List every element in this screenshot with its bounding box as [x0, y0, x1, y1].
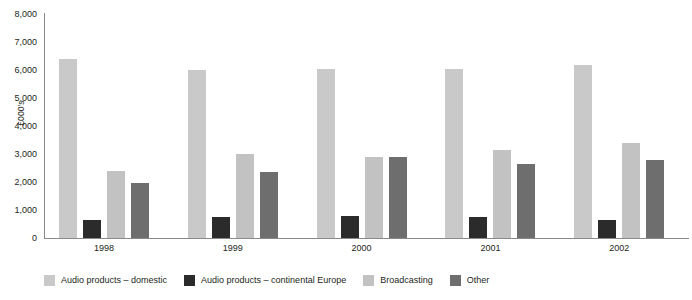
bar-group — [188, 14, 278, 238]
chart-page: £000's 8,0007,0006,0005,0004,0003,0002,0… — [0, 0, 692, 300]
bar — [389, 157, 407, 238]
legend-item[interactable]: Audio products – domestic — [44, 275, 167, 286]
bar-group — [59, 14, 149, 238]
bar — [317, 69, 335, 238]
bar-chart: £000's 8,0007,0006,0005,0004,0003,0002,0… — [0, 0, 692, 262]
legend-item[interactable]: Other — [450, 275, 490, 286]
y-axis-tick-label: 5,000 — [0, 94, 37, 103]
legend-item[interactable]: Audio products – continental Europe — [184, 275, 346, 286]
x-axis-category-label: 2000 — [305, 243, 419, 254]
legend-label: Audio products – continental Europe — [201, 275, 346, 286]
chart-legend: Audio products – domesticAudio products … — [44, 272, 506, 288]
legend-label: Broadcasting — [380, 275, 433, 286]
y-axis-tick-label: 1,000 — [0, 206, 37, 215]
bar — [188, 70, 206, 238]
legend-label: Other — [467, 275, 490, 286]
plot-area — [45, 14, 689, 238]
bar — [59, 59, 77, 238]
legend-swatch-icon — [363, 275, 374, 286]
x-axis-category-labels: 19981999200020012002 — [45, 243, 689, 259]
x-axis-category-label: 2001 — [433, 243, 547, 254]
bar — [260, 172, 278, 238]
bar-group — [574, 14, 664, 238]
bar — [646, 160, 664, 238]
legend-item[interactable]: Broadcasting — [363, 275, 433, 286]
bar-group — [317, 14, 407, 238]
legend-label: Audio products – domestic — [61, 275, 167, 286]
legend-swatch-icon — [44, 275, 55, 286]
y-axis-tick-label: 7,000 — [0, 38, 37, 47]
bar — [131, 183, 149, 238]
bar — [341, 216, 359, 238]
y-axis-tick-label: 3,000 — [0, 150, 37, 159]
x-axis-category-label: 1999 — [176, 243, 290, 254]
bar — [365, 157, 383, 238]
y-axis-tick-label: 4,000 — [0, 122, 37, 131]
bar — [83, 220, 101, 238]
x-axis-line — [44, 238, 689, 239]
bar — [212, 217, 230, 238]
y-axis-tick-labels: 8,0007,0006,0005,0004,0003,0002,0001,000… — [0, 0, 44, 262]
bar — [469, 217, 487, 238]
y-axis-tick-label: 6,000 — [0, 66, 37, 75]
bar-group — [445, 14, 535, 238]
bar — [107, 171, 125, 238]
bar — [574, 65, 592, 238]
x-axis-category-label: 2002 — [562, 243, 676, 254]
y-axis-tick-label: 0 — [0, 234, 37, 243]
legend-swatch-icon — [450, 275, 461, 286]
y-axis-tick-label: 8,000 — [0, 10, 37, 19]
bar — [445, 69, 463, 238]
y-axis-tick-label: 2,000 — [0, 178, 37, 187]
bar — [517, 164, 535, 238]
bar — [493, 150, 511, 238]
bar — [598, 220, 616, 238]
bar — [236, 154, 254, 238]
x-axis-category-label: 1998 — [47, 243, 161, 254]
legend-swatch-icon — [184, 275, 195, 286]
bar — [622, 143, 640, 238]
